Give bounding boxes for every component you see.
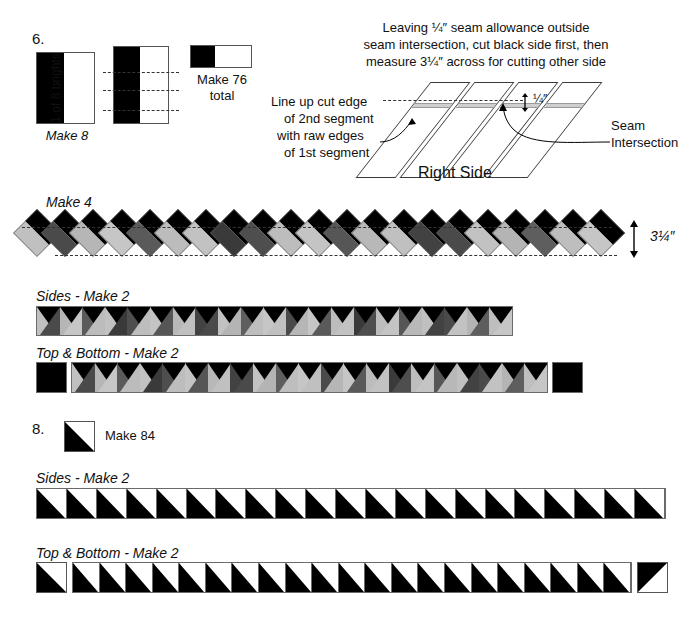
hst-black-triangle — [604, 563, 629, 592]
hst-black-triangle — [515, 489, 543, 518]
hst-black-triangle — [37, 489, 65, 518]
band-gray-triangle — [402, 307, 422, 335]
hst-unit-sample — [64, 421, 95, 452]
hst-black-triangle — [472, 563, 497, 592]
hst-unit — [392, 563, 419, 592]
sides-make-2-hst-label: Sides - Make 2 — [36, 470, 129, 488]
hst-black-triangle — [312, 563, 337, 592]
band-gray-triangle — [176, 307, 196, 335]
band-gray-triangle — [528, 363, 548, 392]
hst-black-triangle — [97, 489, 125, 518]
hst-unit — [37, 489, 67, 518]
hst-unit — [635, 489, 665, 518]
step6-block-cutlines — [113, 46, 169, 124]
hst-unit — [418, 563, 445, 592]
hst-unit — [306, 489, 336, 518]
band-gray-triangle — [108, 307, 128, 335]
hst-black-triangle — [276, 489, 304, 518]
corner-block-right — [552, 362, 583, 393]
diamond-strip-top-dash — [22, 227, 612, 228]
band-cell — [95, 363, 118, 392]
hst-black-triangle — [216, 489, 244, 518]
hst-black-triangle — [65, 422, 94, 451]
measure-3-quarter-label: 3¼″ — [650, 228, 674, 246]
sides-band-diamonds — [36, 306, 513, 336]
band-cell — [457, 363, 480, 392]
hst-unit — [365, 563, 392, 592]
band-cell — [150, 307, 173, 335]
band-gray-triangle — [369, 363, 389, 392]
hst-unit — [312, 563, 339, 592]
band-cell — [117, 363, 140, 392]
step6-block-1-of-8-brights: 1 of 8 brights — [36, 52, 95, 124]
hst-black-triangle — [396, 489, 424, 518]
band-cell — [444, 307, 467, 335]
band-gray-triangle — [266, 307, 286, 335]
hst-unit — [578, 563, 605, 592]
band-cell — [185, 363, 208, 392]
hst-black-triangle — [578, 563, 603, 592]
band-cell — [343, 363, 366, 392]
hst-unit — [127, 489, 157, 518]
hst-unit — [366, 489, 396, 518]
step6-block-unit — [190, 45, 252, 68]
band-gray-triangle — [392, 363, 412, 392]
hst-unit — [100, 563, 127, 592]
hst-black-triangle — [418, 563, 443, 592]
band-cell — [479, 363, 502, 392]
band-gray-triangle — [470, 307, 490, 335]
band-cell — [241, 307, 264, 335]
hst-unit — [525, 563, 552, 592]
band-gray-triangle — [143, 363, 163, 392]
hst-black-triangle — [73, 563, 98, 592]
instruction-line-3: measure 3¼″ across for cutting other sid… — [286, 54, 686, 70]
band-cell — [195, 307, 218, 335]
band-cell — [321, 363, 344, 392]
band-cell — [72, 363, 95, 392]
hst-black-triangle — [127, 489, 155, 518]
hst-black-triangle — [67, 489, 95, 518]
band-cell — [37, 307, 60, 335]
instruction-line-2: seam intersection, cut black side first,… — [286, 37, 686, 53]
black-strip — [191, 46, 215, 67]
hst-black-triangle — [232, 563, 257, 592]
hst-black-triangle — [456, 489, 484, 518]
band-gray-triangle — [312, 307, 332, 335]
band-gray-triangle — [493, 307, 513, 335]
hst-black-triangle — [153, 563, 178, 592]
band-cell — [82, 307, 105, 335]
hst-unit — [515, 489, 545, 518]
band-gray-triangle — [120, 363, 140, 392]
hst-unit — [445, 563, 472, 592]
band-gray-triangle — [211, 363, 231, 392]
make-8-label: Make 8 — [32, 128, 102, 144]
band-cell — [263, 307, 286, 335]
hst-black-triangle — [545, 489, 573, 518]
hst-unit — [67, 489, 97, 518]
hst-black-triangle — [246, 489, 274, 518]
make-76-label: Make 76 — [182, 72, 262, 88]
band-gray-triangle — [380, 307, 400, 335]
band-cell — [467, 307, 490, 335]
cut-line-1 — [103, 72, 179, 73]
hst-black-triangle — [187, 489, 215, 518]
hst-black-triangle — [638, 563, 667, 592]
hst-unit — [339, 563, 366, 592]
step-6-number: 6. — [32, 30, 45, 49]
diamond-unit — [577, 209, 625, 257]
band-gray-triangle — [98, 363, 118, 392]
band-gray-triangle — [447, 307, 467, 335]
step-8-number: 8. — [32, 420, 45, 439]
band-cell — [399, 307, 422, 335]
callout-left-leader-line — [378, 112, 448, 152]
band-gray-triangle — [505, 363, 525, 392]
hst-black-triangle — [525, 563, 550, 592]
hst-unit — [575, 489, 605, 518]
instruction-line-1: Leaving ¼″ seam allowance outside — [286, 20, 686, 36]
band-cell — [389, 363, 412, 392]
hst-unit — [187, 489, 217, 518]
hst-unit — [286, 563, 313, 592]
hst-unit — [73, 563, 100, 592]
top-bottom-make-2-label: Top & Bottom - Make 2 — [36, 345, 179, 363]
band-gray-triangle — [153, 307, 173, 335]
